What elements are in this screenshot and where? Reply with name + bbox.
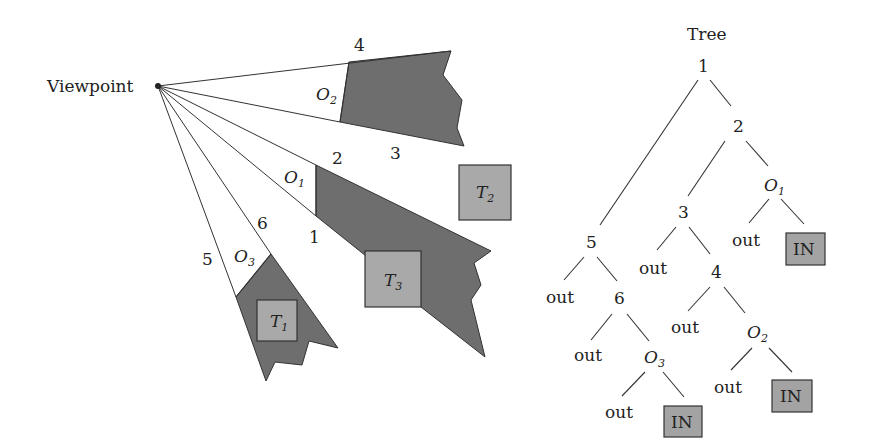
ray-label-6: 6 (257, 213, 268, 233)
tree-node-6: 6 (614, 288, 625, 308)
tree-leaf-out: out (671, 317, 699, 337)
tree-edge (731, 348, 752, 370)
ray-6 (158, 86, 271, 254)
tree-node-o1: O1 (764, 175, 785, 198)
tree-edge (689, 227, 710, 254)
tree-edge (627, 314, 649, 341)
tree-leaf-in: IN (793, 239, 815, 259)
ray-label-2: 2 (332, 148, 343, 168)
tree-edge (724, 287, 745, 313)
tree-leaf-in: IN (671, 412, 693, 432)
tree-leaf-out: out (574, 345, 602, 365)
tree-node-3: 3 (678, 202, 689, 222)
ray-3 (158, 86, 340, 122)
tree-edge (710, 80, 731, 106)
tree-leaf-out: out (639, 258, 667, 278)
tree-edge (657, 227, 676, 250)
tree-node-o2: O2 (747, 322, 768, 345)
ray-label-3: 3 (390, 143, 401, 163)
tree-title: Tree (687, 24, 727, 44)
tree-edge (746, 141, 768, 166)
ray-2 (158, 86, 316, 165)
tree-node-o3: O3 (644, 347, 665, 370)
shadow-o2 (340, 51, 464, 146)
visibility-tree: Tree 1 2 O1 3 5 out IN out 4 out 6 (546, 24, 825, 437)
tree-edge (597, 257, 617, 281)
tree-node-5: 5 (586, 232, 597, 252)
tree-edge (663, 372, 684, 397)
tree-node-2: 2 (733, 116, 744, 136)
viewpoint-dot (155, 83, 161, 89)
tree-edge (749, 199, 769, 223)
tree-leaf-out: out (714, 377, 742, 397)
tree-leaf-in: IN (780, 386, 802, 406)
tree-edge (564, 257, 584, 280)
tree-edge (688, 287, 710, 311)
ray-label-1: 1 (309, 227, 320, 247)
tree-leaf-out: out (605, 402, 633, 422)
tree-edge (769, 348, 792, 372)
occluder-label-o2: O2 (316, 84, 337, 107)
tree-leaf-out: out (546, 287, 574, 307)
tree-edge (781, 199, 804, 224)
tree-node-1: 1 (698, 56, 709, 76)
tree-leaf-out: out (732, 230, 760, 250)
tree-edge (622, 372, 645, 396)
tree-edge (591, 314, 612, 340)
tree-node-4: 4 (711, 262, 722, 282)
tree-edge (688, 141, 725, 196)
ray-label-5: 5 (202, 249, 213, 269)
occluder-label-o3: O3 (234, 246, 255, 269)
diagram-canvas: Viewpoint 4 3 2 1 6 5 O2 O1 O3 T2 T3 T1 … (0, 0, 873, 447)
occlusion-scene: Viewpoint 4 3 2 1 6 5 O2 O1 O3 T2 T3 T1 (46, 35, 511, 381)
ray-label-4: 4 (354, 35, 365, 55)
occluder-label-o1: O1 (284, 167, 305, 190)
viewpoint-label: Viewpoint (46, 76, 134, 96)
